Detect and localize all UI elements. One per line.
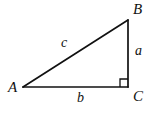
side-label-c: c: [61, 36, 67, 50]
side-c-hypotenuse: [23, 20, 128, 87]
vertex-label-a: A: [8, 80, 17, 95]
right-angle-square-icon: [120, 79, 128, 87]
vertex-label-b: B: [133, 2, 142, 17]
vertex-label-c: C: [133, 89, 143, 104]
side-label-a: a: [135, 44, 142, 58]
side-label-b: b: [77, 91, 84, 105]
right-triangle-figure: A B C c a b: [0, 0, 160, 114]
